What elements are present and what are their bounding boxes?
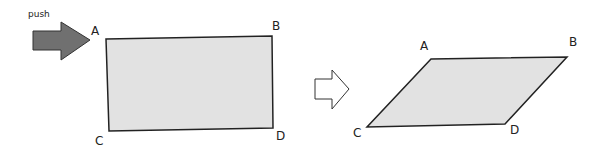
push-label: push (28, 10, 50, 19)
transform-arrow-icon (315, 70, 349, 109)
vertex-c-before: C (95, 135, 103, 147)
parallelogram-shape (367, 57, 567, 127)
vertex-b-before: B (272, 20, 280, 32)
vertex-a-after: A (420, 40, 428, 52)
push-arrow-icon (33, 22, 90, 60)
rectangle-shape (106, 36, 273, 131)
vertex-a-before: A (91, 25, 99, 37)
vertex-b-after: B (569, 36, 577, 48)
vertex-d-after: D (510, 124, 519, 136)
vertex-c-after: C (353, 127, 361, 139)
vertex-d-before: D (276, 130, 285, 142)
